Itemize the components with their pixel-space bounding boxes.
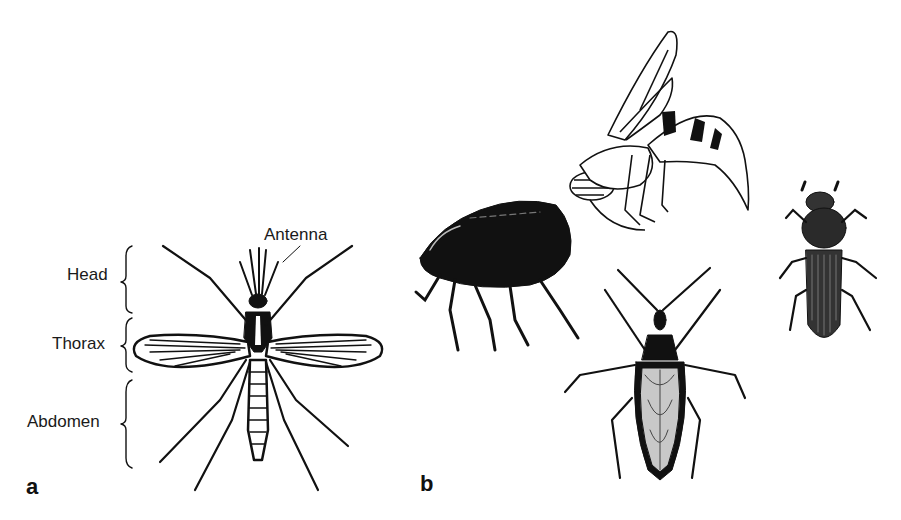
panel-label-a: a <box>26 474 38 500</box>
label-antenna: Antenna <box>264 225 327 245</box>
label-thorax: Thorax <box>52 334 105 354</box>
brace-icon-head <box>121 246 132 313</box>
beetle-illustration <box>780 182 876 338</box>
brace-icon-abdomen <box>121 380 132 468</box>
panel-label-b: b <box>420 471 433 497</box>
assassin-bug-illustration <box>565 268 745 480</box>
mosquito-illustration <box>121 246 382 490</box>
label-abdomen: Abdomen <box>27 412 100 432</box>
wasp-illustration <box>570 31 749 230</box>
flea-illustration <box>416 201 578 350</box>
label-head: Head <box>67 265 108 285</box>
brace-icon-thorax <box>121 318 132 372</box>
figure-canvas <box>0 0 901 520</box>
